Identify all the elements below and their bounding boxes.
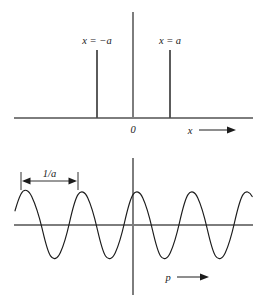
label-x-axis: x bbox=[187, 125, 193, 136]
dimension-arrowhead-left-icon bbox=[22, 178, 31, 185]
x-axis-arrow-icon bbox=[199, 127, 236, 134]
top-panel: x = −a x = a 0 x bbox=[14, 12, 253, 136]
bottom-panel: 1/a p bbox=[14, 158, 253, 295]
p-axis-arrow-icon bbox=[177, 274, 209, 281]
figure-root: x = −a x = a 0 x 1/a bbox=[0, 0, 267, 304]
label-one-over-a: 1/a bbox=[43, 168, 56, 179]
label-p-axis: p bbox=[164, 272, 170, 283]
label-x-equals-a: x = a bbox=[158, 35, 181, 46]
figure-canvas: x = −a x = a 0 x 1/a bbox=[0, 0, 267, 304]
label-x-equals-minus-a: x = −a bbox=[81, 35, 111, 46]
label-origin-zero: 0 bbox=[130, 124, 136, 135]
dimension-arrowhead-right-icon bbox=[69, 178, 78, 185]
